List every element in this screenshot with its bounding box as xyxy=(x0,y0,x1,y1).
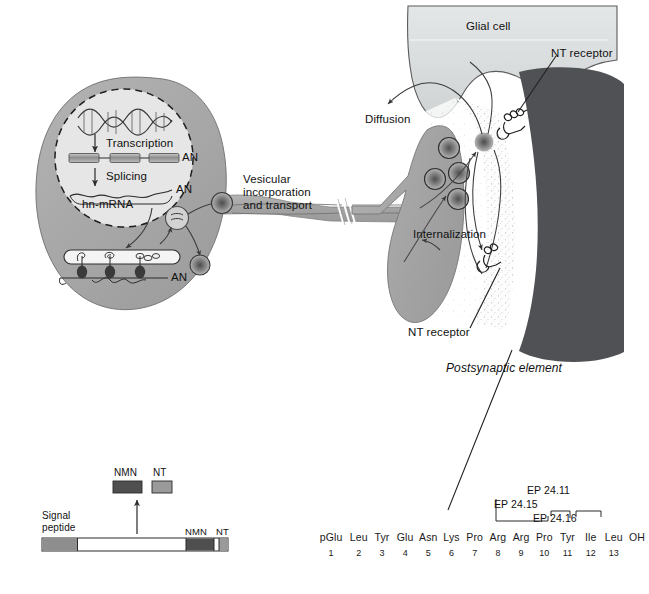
peptide-residue: Arg xyxy=(510,531,533,543)
an-ribosome-label: AN xyxy=(171,271,187,284)
peptide-residue: Leu xyxy=(347,531,370,543)
peptide-residue: Asn xyxy=(417,531,440,543)
postsynaptic-element-shape xyxy=(519,67,624,362)
peptide-residue: Tyr xyxy=(556,531,579,543)
peptide-residue-number: 1 xyxy=(315,548,347,558)
glial-cell-label: Glial cell xyxy=(466,20,510,33)
signal-peptide-label-line2: peptide xyxy=(42,522,76,533)
enzyme-ep-2415-label: EP 24.15 xyxy=(494,498,538,511)
peptide-residue: Lys xyxy=(440,531,463,543)
peptide-residue-number: 8 xyxy=(486,548,509,558)
signal-peptide-label-line1: Signal xyxy=(42,510,70,521)
peptide-residue-number: 13 xyxy=(602,548,625,558)
nt-receptor-top-label: NT receptor xyxy=(551,47,613,60)
golgi-apparatus-icon xyxy=(166,207,189,230)
peptide-residue-number: 5 xyxy=(417,548,440,558)
hn-mrna-label: hn-mRNA xyxy=(82,198,133,211)
pre-mrna-strand xyxy=(69,154,179,163)
an-pre-mrna-label: AN xyxy=(182,151,198,164)
peptide-residue: Ile xyxy=(579,531,602,543)
soma-vesicle-lower xyxy=(190,255,210,275)
peptide-residue: Leu xyxy=(602,531,625,543)
peptide-residue-number: 7 xyxy=(463,548,486,558)
enzyme-ep-2416-label: EP 24.16 xyxy=(533,512,577,525)
peptide-residue: Pro xyxy=(533,531,556,543)
peptide-residue: pGlu xyxy=(315,531,347,543)
peptide-residue: Pro xyxy=(463,531,486,543)
nt-receptor-bottom-label: NT receptor xyxy=(408,326,470,339)
legend-nt-bar-label: NT xyxy=(216,525,229,538)
legend-nt-top-label: NT xyxy=(153,466,167,479)
peptide-residue-number: 6 xyxy=(440,548,463,558)
splicing-label: Splicing xyxy=(106,170,147,183)
vesicular-transport-label-line1: Vesicular incorporation xyxy=(243,173,311,198)
peptide-residue-number: 10 xyxy=(533,548,556,558)
peptide-number-row: 12345678910111213 xyxy=(315,548,625,558)
enzyme-ep-2411-label: EP 24.11 xyxy=(527,484,570,497)
peptide-c-terminus: OH xyxy=(625,531,648,543)
legend-product-blocks xyxy=(113,481,172,493)
soma-vesicle-upper xyxy=(212,193,233,214)
peptide-residue: Tyr xyxy=(370,531,393,543)
internalization-label: Internalization xyxy=(413,228,486,241)
peptide-sequence-row: pGluLeuTyrGluAsnLysProArgArgProTyrIleLeu… xyxy=(315,531,649,543)
postsynaptic-element-label: Postsynaptic element xyxy=(446,362,562,375)
diffusion-label: Diffusion xyxy=(365,113,410,126)
peptide-residue-number: 11 xyxy=(556,548,579,558)
precursor-bar-graphic xyxy=(42,538,228,551)
legend-nmn-bar-label: NMN xyxy=(185,525,207,538)
vesicular-transport-label-line2: and transport xyxy=(243,199,312,211)
peptide-residue-number: 9 xyxy=(510,548,533,558)
an-spliced-label: AN xyxy=(176,183,192,196)
legend-nmn-top-label: NMN xyxy=(114,466,137,479)
peptide-residue-number: 12 xyxy=(579,548,602,558)
peptide-residue-number: 4 xyxy=(394,548,417,558)
peptide-residue-number: 2 xyxy=(347,548,370,558)
peptide-residue-number: 3 xyxy=(370,548,393,558)
peptide-residue: Glu xyxy=(394,531,417,543)
transcription-label: Transcription xyxy=(106,137,173,150)
peptide-residue: Arg xyxy=(486,531,509,543)
